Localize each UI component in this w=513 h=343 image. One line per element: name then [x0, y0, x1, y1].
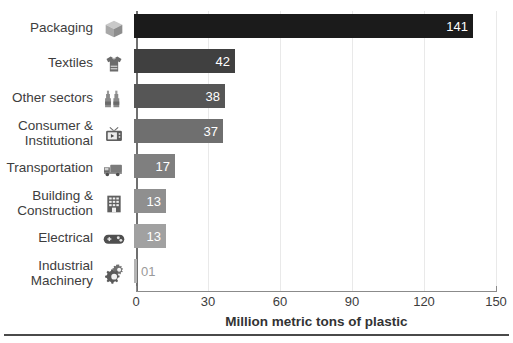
bar-chart: Packaging 141 Textiles: [0, 0, 513, 343]
bar-value-packaging: 141: [446, 19, 473, 34]
bar-consumer-institutional: 37: [134, 119, 223, 143]
bar-track-packaging: 141: [132, 11, 513, 46]
bar-row-consumer-institutional: Consumer & Institutional 37: [0, 116, 513, 151]
bar-track-other-sectors: 38: [132, 81, 513, 116]
bar-value-textiles: 42: [216, 54, 235, 69]
bar-row-building-construction: Building & Construction: [0, 186, 513, 221]
bar-value-consumer-institutional: 37: [204, 124, 223, 139]
bar-value-industrial-machinery: 01: [137, 264, 155, 279]
bar-track-industrial-machinery: 01: [132, 256, 513, 291]
gears-icon: [96, 263, 132, 284]
bar-row-packaging: Packaging 141: [0, 11, 513, 46]
bar-value-electrical: 13: [147, 229, 166, 244]
category-label-other-sectors: Other sectors: [0, 91, 96, 106]
bar-track-electrical: 13: [132, 221, 513, 256]
bar-row-textiles: Textiles 42: [0, 46, 513, 81]
x-tick-30: 30: [201, 294, 215, 309]
bar-building-construction: 13: [134, 189, 166, 213]
x-axis-tick-labels: 0 30 60 90 120 150: [0, 294, 513, 312]
x-tick-150: 150: [485, 294, 507, 309]
category-label-transportation: Transportation: [0, 161, 96, 176]
bar-row-transportation: Transportation 17: [0, 151, 513, 186]
bar-row-other-sectors: Other sectors 38: [0, 81, 513, 116]
bottom-divider: [4, 334, 509, 336]
bar-other-sectors: 38: [134, 84, 225, 108]
bar-transportation: 17: [134, 154, 175, 178]
category-label-industrial-machinery: Industrial Machinery: [0, 259, 96, 289]
category-label-consumer-institutional: Consumer & Institutional: [0, 119, 96, 149]
x-tick-90: 90: [345, 294, 359, 309]
truck-icon: [96, 159, 132, 179]
category-label-building-construction: Building & Construction: [0, 189, 96, 219]
bar-track-transportation: 17: [132, 151, 513, 186]
bar-packaging: 141: [134, 14, 473, 38]
x-axis-title: Million metric tons of plastic: [136, 314, 497, 329]
category-label-packaging: Packaging: [0, 21, 96, 36]
bar-industrial-machinery: 01: [134, 259, 137, 283]
bar-rows: Packaging 141 Textiles: [0, 11, 513, 291]
bar-track-textiles: 42: [132, 46, 513, 81]
bar-textiles: 42: [134, 49, 235, 73]
tshirt-icon: [96, 54, 132, 74]
box-icon: [96, 19, 132, 39]
bar-value-building-construction: 13: [147, 194, 166, 209]
x-tick-0: 0: [132, 294, 139, 309]
television-icon: [96, 124, 132, 144]
category-label-textiles: Textiles: [0, 56, 96, 71]
category-label-electrical: Electrical: [0, 231, 96, 246]
bar-row-electrical: Electrical 13: [0, 221, 513, 256]
x-tick-120: 120: [413, 294, 435, 309]
x-axis-line: [136, 291, 497, 292]
bar-track-building-construction: 13: [132, 186, 513, 221]
bar-row-industrial-machinery: Industrial Machinery 01: [0, 256, 513, 291]
x-tick-60: 60: [273, 294, 287, 309]
game-controller-icon: [96, 230, 132, 248]
bar-track-consumer-institutional: 37: [132, 116, 513, 151]
bar-electrical: 13: [134, 224, 166, 248]
bar-value-other-sectors: 38: [206, 89, 225, 104]
two-bottles-icon: [96, 89, 132, 109]
building-icon: [96, 194, 132, 214]
bar-value-transportation: 17: [156, 159, 175, 174]
